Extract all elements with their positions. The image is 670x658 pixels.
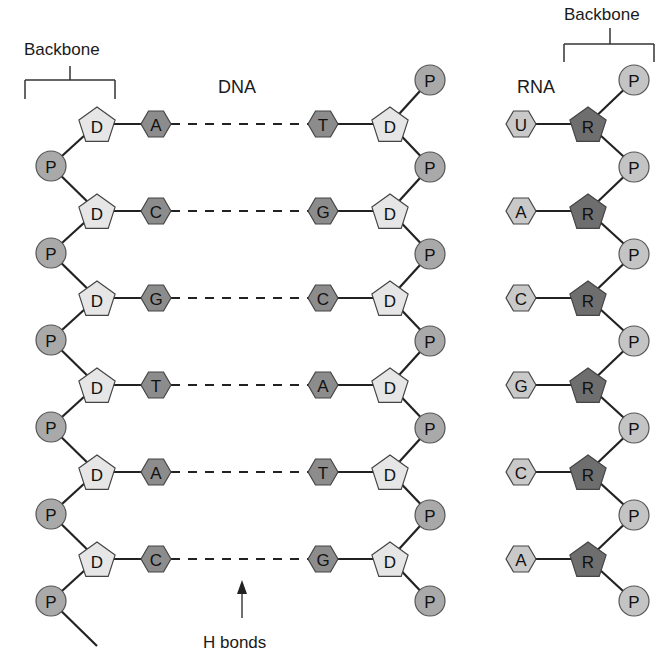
svg-text:G: G — [149, 290, 162, 309]
rna-phosphate: P — [619, 65, 649, 95]
dna-title: DNA — [218, 77, 256, 97]
backbone-right-label: Backbone — [564, 5, 640, 24]
phosphate-right: P — [415, 413, 445, 443]
svg-text:D: D — [384, 466, 396, 485]
svg-text:P: P — [424, 72, 435, 91]
svg-text:P: P — [424, 159, 435, 178]
base-right: G — [308, 198, 338, 224]
rna-phosphate: P — [619, 152, 649, 182]
svg-text:D: D — [384, 379, 396, 398]
phosphate-left: P — [36, 325, 66, 355]
base-left: G — [141, 285, 171, 311]
svg-text:R: R — [582, 118, 594, 137]
svg-text:D: D — [384, 292, 396, 311]
rna-title: RNA — [517, 77, 555, 97]
hbonds-label: H bonds — [203, 633, 266, 652]
svg-text:P: P — [45, 419, 56, 438]
right-backbone-bracket — [564, 28, 654, 62]
rna-phosphate: P — [619, 326, 649, 356]
svg-text:C: C — [150, 203, 162, 222]
base-right: T — [308, 459, 338, 485]
svg-text:D: D — [91, 292, 103, 311]
phosphate-right: P — [415, 65, 445, 95]
svg-text:C: C — [515, 464, 527, 483]
svg-text:P: P — [628, 246, 639, 265]
svg-text:A: A — [515, 203, 527, 222]
svg-text:D: D — [91, 118, 103, 137]
svg-text:P: P — [628, 507, 639, 526]
rna-phosphate: P — [619, 586, 649, 616]
phosphate-left: P — [36, 412, 66, 442]
base-right: A — [308, 372, 338, 398]
svg-text:D: D — [91, 379, 103, 398]
deoxyribose-right: D — [372, 368, 408, 402]
svg-text:P: P — [45, 245, 56, 264]
phosphate-right: P — [415, 586, 445, 616]
svg-text:D: D — [384, 205, 396, 224]
deoxyribose-right: D — [372, 107, 408, 141]
svg-text:G: G — [316, 203, 329, 222]
dna-rna-diagram: Backbone DNA Backbone RNA H bonds PDATDP… — [0, 0, 670, 658]
svg-text:G: G — [514, 377, 527, 396]
svg-text:G: G — [316, 551, 329, 570]
rna-base: U — [506, 111, 536, 137]
phosphate-left: P — [36, 586, 66, 616]
svg-text:D: D — [384, 118, 396, 137]
phosphate-left: P — [36, 499, 66, 529]
rna-base: G — [506, 372, 536, 398]
base-right: T — [308, 111, 338, 137]
svg-text:P: P — [628, 333, 639, 352]
svg-text:A: A — [515, 551, 527, 570]
base-left: C — [141, 198, 171, 224]
svg-text:R: R — [582, 292, 594, 311]
svg-text:P: P — [45, 158, 56, 177]
base-left: A — [141, 459, 171, 485]
svg-text:D: D — [91, 553, 103, 572]
deoxyribose-right: D — [372, 542, 408, 576]
svg-text:P: P — [45, 593, 56, 612]
phosphate-right: P — [415, 326, 445, 356]
deoxyribose-right: D — [372, 194, 408, 228]
svg-text:R: R — [582, 466, 594, 485]
rna-base: C — [506, 459, 536, 485]
phosphate-right: P — [415, 500, 445, 530]
svg-text:C: C — [317, 290, 329, 309]
svg-text:D: D — [91, 466, 103, 485]
svg-text:P: P — [424, 246, 435, 265]
svg-text:A: A — [150, 464, 162, 483]
rna-phosphate: P — [619, 413, 649, 443]
svg-text:T: T — [318, 464, 328, 483]
svg-text:U: U — [515, 116, 527, 135]
svg-text:P: P — [628, 72, 639, 91]
base-right: G — [308, 546, 338, 572]
rna-base: C — [506, 285, 536, 311]
backbone-left-label: Backbone — [24, 40, 100, 59]
rna-base: A — [506, 198, 536, 224]
base-left: A — [141, 111, 171, 137]
svg-text:P: P — [45, 506, 56, 525]
svg-text:R: R — [582, 553, 594, 572]
svg-text:T: T — [151, 377, 161, 396]
svg-text:C: C — [515, 290, 527, 309]
svg-text:P: P — [45, 332, 56, 351]
svg-text:P: P — [628, 593, 639, 612]
svg-text:A: A — [317, 377, 329, 396]
svg-text:D: D — [384, 553, 396, 572]
svg-text:T: T — [318, 116, 328, 135]
phosphate-left: P — [36, 151, 66, 181]
phosphate-right: P — [415, 239, 445, 269]
svg-text:C: C — [150, 551, 162, 570]
deoxyribose-left: D — [79, 107, 115, 141]
svg-text:P: P — [628, 420, 639, 439]
base-left: T — [141, 372, 171, 398]
rna-phosphate: P — [619, 239, 649, 269]
rna-base: A — [506, 546, 536, 572]
rna-phosphate: P — [619, 500, 649, 530]
base-left: C — [141, 546, 171, 572]
svg-text:R: R — [582, 379, 594, 398]
base-right: C — [308, 285, 338, 311]
phosphate-right: P — [415, 152, 445, 182]
svg-text:R: R — [582, 205, 594, 224]
svg-text:P: P — [424, 593, 435, 612]
svg-text:A: A — [150, 116, 162, 135]
